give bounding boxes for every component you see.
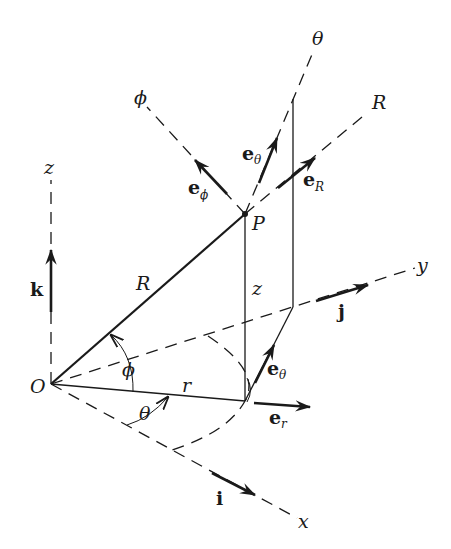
j-vector-label: j bbox=[336, 300, 345, 322]
R-direction-line bbox=[245, 112, 368, 214]
r-segment bbox=[51, 384, 245, 401]
e-theta-lower-vector-label: eθ bbox=[267, 357, 287, 382]
e-theta-upper-vector-label: eθ bbox=[242, 142, 262, 167]
point-P-label: P bbox=[251, 212, 266, 234]
z-axis-label: z bbox=[43, 156, 55, 178]
theta-angle-label: θ bbox=[139, 402, 151, 424]
j-vector-arrow bbox=[316, 285, 368, 301]
phi-angle-label: ϕ bbox=[122, 358, 135, 380]
y-axis-label: y bbox=[416, 254, 428, 276]
r-length-label: r bbox=[182, 374, 193, 396]
theta-direction-label: θ bbox=[312, 27, 324, 49]
e-r-vector-arrow bbox=[254, 403, 310, 407]
i-vector-label: i bbox=[216, 487, 223, 509]
e-R-vector-label: eR bbox=[303, 168, 324, 194]
R-segment bbox=[51, 214, 245, 384]
R-direction-label: R bbox=[371, 91, 386, 113]
k-vector-label: k bbox=[30, 278, 44, 300]
spherical-coordinates-diagram: z y x ϕ θ R O P R z r ϕ θ k j i eϕ eθ eR… bbox=[0, 0, 451, 549]
point-P bbox=[242, 211, 248, 217]
e-r-vector-label: er bbox=[269, 406, 288, 431]
phi-direction-label: ϕ bbox=[134, 86, 147, 108]
R-length-label: R bbox=[135, 272, 150, 294]
origin-label: O bbox=[30, 375, 46, 397]
e-phi-vector-label: eϕ bbox=[188, 176, 208, 202]
z-height-label: z bbox=[251, 277, 263, 299]
x-axis-label: x bbox=[298, 510, 309, 532]
y-axis bbox=[51, 268, 415, 384]
e-theta-upper-vector-arrow bbox=[259, 138, 277, 183]
